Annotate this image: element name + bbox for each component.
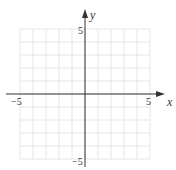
x-min-tick-label: −5 [11, 96, 22, 107]
y-axis-label: y [89, 8, 96, 22]
x-max-tick-label: 5 [146, 96, 151, 107]
y-max-tick-label: 5 [78, 25, 83, 36]
y-min-tick-label: −5 [72, 156, 83, 167]
coordinate-plane: y x 5 −5 −5 5 [0, 0, 176, 170]
x-axis-label: x [166, 95, 173, 109]
y-axis-arrow-icon [82, 9, 88, 18]
x-axis-arrow-icon [156, 91, 165, 97]
